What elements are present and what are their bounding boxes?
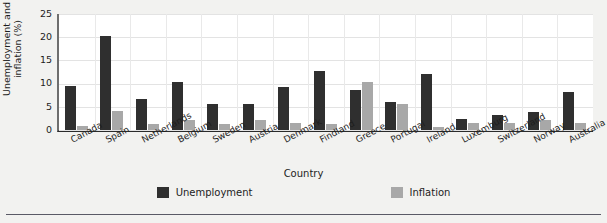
bar-unemployment-luxemburg [456, 119, 467, 130]
y-axis-label: Unemployment and inflation (%) [1, 0, 23, 101]
bar-group [201, 14, 237, 130]
bar-group [415, 14, 451, 130]
legend-swatch-inflation [391, 187, 403, 198]
bar-group [557, 14, 593, 130]
y-tick-0: 0 [28, 125, 52, 135]
bar-unemployment-denmark [278, 87, 289, 130]
bar-unemployment-netherlands [136, 99, 147, 130]
chart-legend: Unemployment Inflation [0, 187, 607, 198]
legend-label-unemployment: Unemployment [176, 187, 253, 198]
y-tick-5: 5 [28, 102, 52, 112]
bar-group [379, 14, 415, 130]
bar-unemployment-portugal [385, 102, 396, 130]
x-axis-label: Country [0, 168, 607, 179]
bar-group [273, 14, 309, 130]
legend-item-inflation: Inflation [391, 187, 451, 198]
bottom-divider [6, 214, 601, 215]
y-tick-10: 10 [28, 78, 52, 88]
bar-group [344, 14, 380, 130]
plot-area [57, 14, 593, 132]
bar-group [130, 14, 166, 130]
bar-chart: 25 20 15 10 5 0 Unemployment and inflati… [0, 0, 607, 223]
legend-label-inflation: Inflation [410, 187, 451, 198]
y-tick-20: 20 [28, 32, 52, 42]
bar-group [95, 14, 131, 130]
bar-group [308, 14, 344, 130]
y-tick-25: 25 [28, 9, 52, 19]
legend-swatch-unemployment [157, 187, 169, 198]
bar-unemployment-canada [65, 86, 76, 130]
y-tick-15: 15 [28, 55, 52, 65]
bar-unemployment-spain [100, 36, 111, 130]
bar-group [451, 14, 487, 130]
bars-layer [59, 14, 593, 130]
legend-item-unemployment: Unemployment [157, 187, 253, 198]
y-axis-ticks: 25 20 15 10 5 0 [22, 14, 52, 130]
bar-group [59, 14, 95, 130]
x-axis-labels: CanadaSpainNetherlandsBelgiumSwedenAustr… [57, 132, 591, 168]
bar-group [237, 14, 273, 130]
bar-inflation-greece [362, 82, 373, 130]
